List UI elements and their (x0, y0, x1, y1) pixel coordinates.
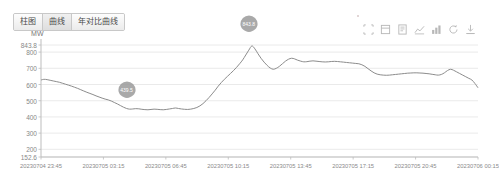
x-axis-tick: 20230705 13:45 (270, 163, 312, 169)
x-axis-tick: 20230705 20:45 (395, 163, 437, 169)
x-axis-tick: 20230705 10:15 (207, 163, 249, 169)
x-axis-tick: 20230705 17:15 (332, 163, 374, 169)
x-axis-tick: 20230705 06:45 (145, 163, 187, 169)
x-axis-tick: 20230705 03:15 (82, 163, 124, 169)
x-axis-tick: 20230706 00:15 (457, 163, 499, 169)
x-axis-tick: 20230704 23:45 (20, 163, 62, 169)
